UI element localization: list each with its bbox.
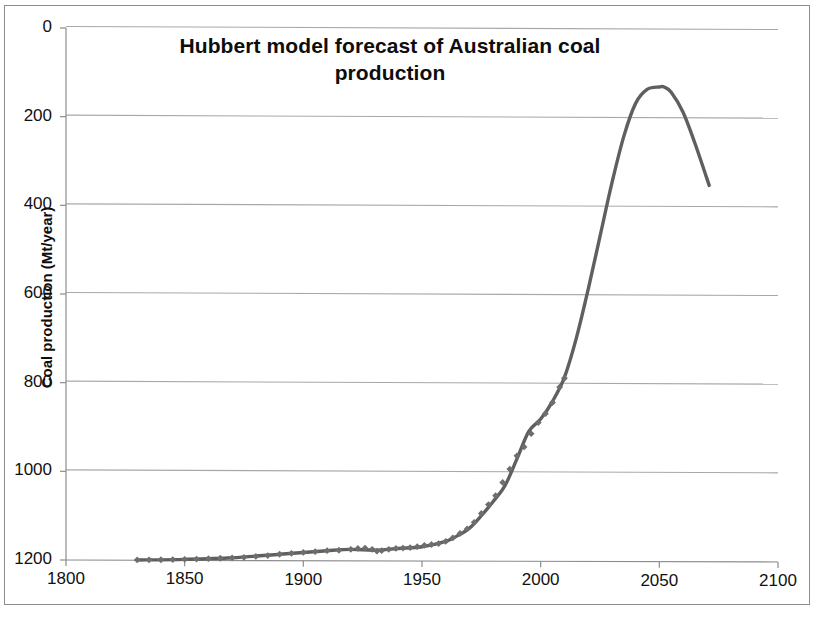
gridline: [66, 27, 778, 30]
gridline: [66, 293, 778, 296]
chart-title: Hubbert model forecast of Australian coa…: [150, 33, 630, 87]
x-tick-label: 1800: [31, 569, 101, 589]
plot-canvas: [0, 0, 816, 621]
data-point-marker: [264, 552, 271, 559]
x-tick-label: 2050: [624, 571, 694, 591]
data-point-marker: [181, 556, 188, 563]
data-point-marker: [400, 545, 407, 552]
data-point-marker: [193, 556, 200, 563]
data-point-marker: [146, 556, 153, 563]
data-point-marker: [324, 547, 331, 554]
y-tick-marks-group: [60, 28, 66, 560]
y-tick-label: 600: [0, 283, 52, 303]
y-tick-label: 400: [0, 194, 52, 214]
x-tick-label: 2100: [743, 571, 813, 591]
chart-title-line-2: production: [150, 60, 630, 87]
data-point-marker: [134, 557, 141, 564]
data-point-marker: [407, 544, 414, 551]
x-tick-label: 1900: [268, 570, 338, 590]
historical-data-markers: [134, 375, 568, 564]
data-point-marker: [385, 546, 392, 553]
chart-figure: Hubbert model forecast of Australian coa…: [0, 0, 816, 621]
x-tick-label: 1850: [150, 569, 220, 589]
data-point-marker: [336, 547, 343, 554]
gridline: [66, 381, 778, 384]
data-point-marker: [347, 546, 354, 553]
y-tick-label: 200: [0, 106, 52, 126]
data-point-marker: [252, 553, 259, 560]
data-point-marker: [241, 554, 248, 561]
y-tick-label: 800: [0, 372, 52, 392]
data-point-marker: [276, 551, 283, 558]
gridline: [66, 115, 778, 118]
data-point-marker: [300, 549, 307, 556]
y-tick-label: 1200: [0, 549, 52, 569]
data-point-marker: [312, 548, 319, 555]
y-tick-label: 1000: [0, 460, 52, 480]
data-point-marker: [158, 556, 165, 563]
data-point-marker: [392, 545, 399, 552]
gridline: [66, 470, 778, 473]
hubbert-forecast-curve: [137, 86, 709, 559]
chart-title-line-1: Hubbert model forecast of Australian coa…: [150, 33, 630, 60]
gridline: [66, 204, 778, 207]
y-tick-label: 0: [0, 17, 52, 37]
data-point-marker: [169, 556, 176, 563]
data-point-marker: [288, 550, 295, 557]
data-point-marker: [205, 555, 212, 562]
x-tick-label: 1950: [387, 570, 457, 590]
x-tick-label: 2000: [506, 570, 576, 590]
